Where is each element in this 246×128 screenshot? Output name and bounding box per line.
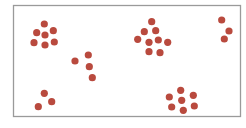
- data-point: [30, 39, 37, 46]
- data-point: [221, 35, 228, 42]
- data-point: [145, 48, 152, 55]
- data-point: [41, 41, 48, 48]
- data-point: [191, 102, 198, 109]
- data-point: [180, 107, 187, 114]
- plot-frame: [14, 6, 241, 117]
- data-point: [178, 97, 185, 104]
- data-point: [134, 36, 141, 43]
- data-point: [145, 39, 152, 46]
- data-point: [41, 90, 48, 97]
- data-point: [48, 98, 55, 105]
- data-point: [218, 16, 225, 23]
- data-point: [71, 57, 78, 64]
- data-point: [50, 27, 57, 34]
- data-point: [164, 39, 171, 46]
- data-point: [89, 74, 96, 81]
- data-point: [156, 49, 163, 56]
- data-point: [35, 103, 42, 110]
- scatter-plot: [0, 0, 246, 128]
- scatter-figure: [0, 0, 246, 128]
- data-point: [168, 103, 175, 110]
- data-point: [51, 38, 58, 45]
- data-point: [152, 27, 159, 34]
- data-point: [148, 18, 155, 25]
- data-point: [225, 27, 232, 34]
- data-point: [33, 29, 40, 36]
- data-point: [177, 87, 184, 94]
- data-point: [190, 92, 197, 99]
- data-point: [41, 20, 48, 27]
- data-point: [86, 63, 93, 70]
- data-point: [166, 93, 173, 100]
- data-point: [41, 31, 48, 38]
- data-point: [155, 36, 162, 43]
- data-point: [85, 51, 92, 58]
- data-point: [141, 28, 148, 35]
